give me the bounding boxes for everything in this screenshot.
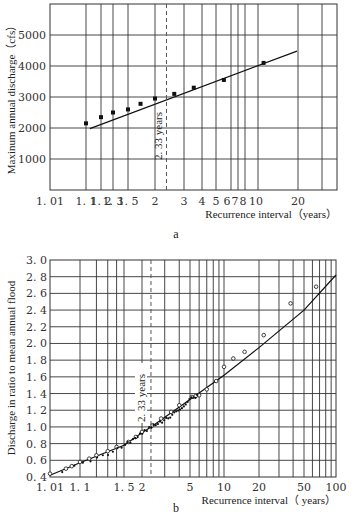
data-point — [222, 78, 226, 82]
data-point — [64, 467, 68, 471]
data-point-dense — [96, 456, 98, 458]
data-point-dense — [196, 394, 198, 396]
x-tick-label: 5 — [187, 481, 194, 494]
data-point-dense — [177, 409, 179, 411]
data-point-dense — [107, 454, 109, 456]
data-point-dense — [134, 437, 136, 439]
data-point-dense — [187, 401, 189, 403]
y-axis-label: Discharge in ratio to mean annual flood — [5, 280, 17, 455]
data-point-dense — [137, 436, 139, 438]
data-point-dense — [146, 430, 148, 432]
fitted-line — [90, 51, 297, 129]
x-tick-label: 6 — [224, 195, 231, 208]
data-point — [84, 121, 88, 125]
y-tick-label: 2. 6 — [26, 287, 47, 300]
data-point — [177, 403, 181, 407]
data-point — [262, 333, 266, 337]
data-point-dense — [116, 447, 118, 449]
data-point — [289, 302, 293, 306]
data-point — [192, 86, 196, 90]
y-tick-label: 3. 0 — [26, 254, 47, 267]
x-tick-label: 8 — [240, 195, 247, 208]
data-point-dense — [73, 465, 75, 467]
data-point-dense — [159, 420, 161, 422]
y-tick-label: 1. 4 — [26, 388, 47, 401]
data-point-dense — [153, 424, 155, 426]
y-tick-label: 5000 — [18, 29, 46, 42]
y-axis-label: Maxinum annual discharge（cfs） — [5, 20, 17, 174]
data-point-dense — [82, 462, 84, 464]
data-point — [172, 92, 176, 96]
y-tick-label: 2. 4 — [26, 304, 47, 317]
data-point-dense — [148, 426, 150, 428]
data-point-dense — [139, 432, 141, 434]
chart-a: 2. 33 years100020003000400050001. 011. 1… — [5, 4, 337, 220]
data-point-dense — [163, 419, 165, 421]
x-tick-label: 5 — [213, 195, 220, 208]
figure: 2. 33 years100020003000400050001. 011. 1… — [0, 0, 352, 526]
data-point-dense — [173, 411, 175, 413]
data-point — [243, 350, 247, 354]
x-tick-label: 20 — [252, 481, 266, 494]
x-tick-label: 1. 5 — [118, 195, 139, 208]
data-point — [95, 454, 99, 458]
y-tick-label: 1. 2 — [26, 404, 47, 417]
y-tick-label: 0. 6 — [26, 454, 47, 467]
data-point — [48, 472, 52, 476]
data-point-dense — [102, 454, 104, 456]
data-point-dense — [89, 460, 91, 462]
y-tick-label: 1. 0 — [26, 421, 47, 434]
x-tick-label: 100 — [326, 481, 347, 494]
data-point-dense — [143, 429, 145, 431]
data-point — [139, 102, 143, 106]
y-tick-label: 2. 8 — [26, 271, 47, 284]
annotation-2-33-years: 2. 33 years — [135, 374, 147, 422]
data-point-dense — [171, 414, 173, 416]
x-tick-label: 50 — [297, 481, 311, 494]
y-tick-label: 2000 — [18, 122, 46, 135]
data-point — [111, 111, 115, 115]
x-tick-label: 10 — [249, 195, 263, 208]
data-point-dense — [169, 417, 171, 419]
data-point — [169, 410, 173, 414]
data-point-dense — [161, 422, 163, 424]
data-point-dense — [190, 396, 192, 398]
data-point-dense — [141, 433, 143, 435]
data-point-dense — [181, 407, 183, 409]
data-point-dense — [129, 442, 131, 444]
x-tick-label: 1. 1 — [70, 481, 91, 494]
x-tick-label: 2 — [139, 481, 146, 494]
data-point-dense — [121, 447, 123, 449]
y-tick-label: 0. 8 — [26, 438, 47, 451]
data-point-dense — [183, 405, 185, 407]
data-point — [126, 107, 130, 111]
data-point — [222, 365, 226, 369]
data-point-dense — [175, 410, 177, 412]
panel-a-label: a — [173, 227, 179, 241]
data-point — [106, 449, 110, 453]
x-tick-label: 3 — [181, 195, 188, 208]
x-tick-label: 1. 01 — [36, 481, 64, 494]
data-point-dense — [124, 444, 126, 446]
data-point-dense — [127, 441, 129, 443]
data-point-dense — [157, 423, 159, 425]
data-point-dense — [194, 397, 196, 399]
data-point — [159, 417, 163, 421]
data-point — [214, 379, 218, 383]
y-tick-label: 2. 2 — [26, 321, 47, 334]
data-point — [205, 388, 209, 392]
y-tick-label: 1. 6 — [26, 371, 47, 384]
data-point — [87, 457, 91, 461]
x-tick-label: 10 — [217, 481, 231, 494]
x-tick-label: 20 — [291, 195, 305, 208]
data-point-dense — [179, 408, 181, 410]
data-point — [99, 115, 103, 119]
x-axis-label: Recurrence interval（ years） — [202, 494, 336, 506]
data-point-dense — [150, 427, 152, 429]
data-point-dense — [155, 424, 157, 426]
data-point — [78, 460, 82, 464]
data-point-dense — [188, 398, 190, 400]
data-point — [70, 464, 74, 468]
panel-b-label: b — [173, 501, 179, 515]
data-point-dense — [185, 403, 187, 405]
